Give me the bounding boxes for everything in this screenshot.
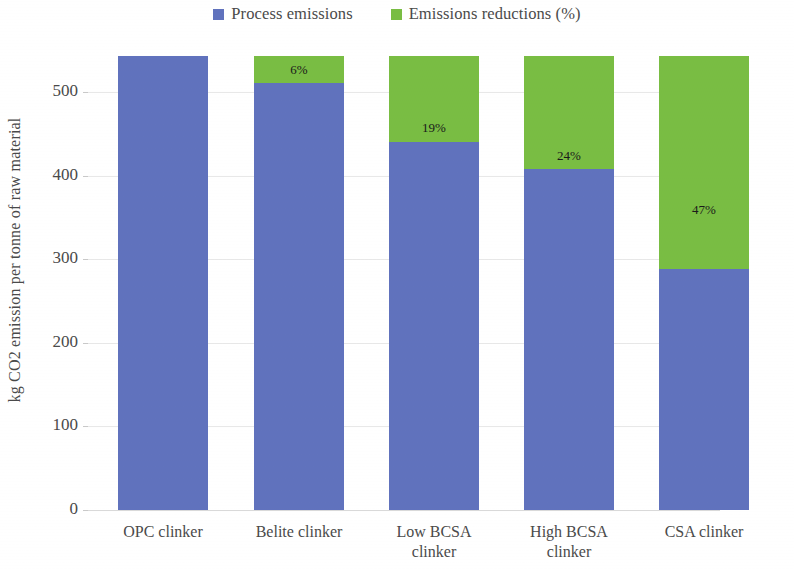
x-axis-label-csa-line1: CSA clinker [629, 522, 779, 542]
bar-segment-process-opc[interactable] [118, 56, 208, 510]
x-axis-label-belite-line1: Belite clinker [224, 522, 374, 542]
legend-item-emissions-reductions: Emissions reductions (%) [391, 5, 581, 23]
x-axis-label-belite-clinker: Belite clinker [224, 522, 374, 542]
legend-swatch-icon-reduction [391, 9, 402, 20]
bar-segment-reduction-low-bcsa[interactable] [389, 56, 479, 142]
legend-label-reduction: Emissions reductions (%) [409, 5, 581, 23]
y-axis-tick-500: 500 [34, 81, 78, 101]
legend-swatch-icon-process [213, 9, 224, 20]
x-axis-label-low-bcsa-line2: clinker [359, 542, 509, 562]
bar-group-high-bcsa-clinker[interactable]: 24% [524, 56, 614, 510]
x-axis-label-high-bcsa-line1: High BCSA [494, 522, 644, 542]
bar-segment-process-belite[interactable] [254, 83, 344, 510]
chart-legend: Process emissions Emissions reductions (… [0, 2, 794, 26]
x-axis-label-low-bcsa-clinker: Low BCSA clinker [359, 522, 509, 562]
bar-group-low-bcsa-clinker[interactable]: 19% [389, 56, 479, 510]
bar-segment-process-low-bcsa[interactable] [389, 142, 479, 510]
x-axis-label-high-bcsa-clinker: High BCSA clinker [494, 522, 644, 562]
bar-group-csa-clinker[interactable]: 47% [659, 56, 749, 510]
legend-item-process-emissions: Process emissions [213, 5, 352, 23]
y-axis-tick-100: 100 [34, 415, 78, 435]
bar-segment-reduction-csa[interactable] [659, 56, 749, 269]
plot-area: 6% 19% 24% 47% [88, 30, 720, 510]
x-axis-label-opc-clinker: OPC clinker [88, 522, 238, 542]
y-axis-title: kg CO2 emission per tonne of raw materia… [2, 0, 28, 520]
chart-container: Process emissions Emissions reductions (… [0, 0, 794, 569]
bar-group-belite-clinker[interactable]: 6% [254, 56, 344, 510]
bar-segment-process-csa[interactable] [659, 269, 749, 510]
y-axis-tick-0: 0 [34, 499, 78, 519]
x-axis-label-high-bcsa-line2: clinker [494, 542, 644, 562]
y-axis-tick-300: 300 [34, 248, 78, 268]
bar-group-opc-clinker[interactable] [118, 56, 208, 510]
legend-label-process: Process emissions [231, 5, 352, 23]
x-axis-label-csa-clinker: CSA clinker [629, 522, 779, 542]
y-axis-tick-200: 200 [34, 332, 78, 352]
x-axis-label-low-bcsa-line1: Low BCSA [359, 522, 509, 542]
y-axis-title-text: kg CO2 emission per tonne of raw materia… [6, 117, 24, 402]
x-axis-line [88, 510, 720, 511]
bar-segment-process-high-bcsa[interactable] [524, 169, 614, 510]
x-axis-label-opc-line1: OPC clinker [88, 522, 238, 542]
y-axis-tick-400: 400 [34, 165, 78, 185]
bar-segment-reduction-high-bcsa[interactable] [524, 56, 614, 169]
x-axis-labels: OPC clinker Belite clinker Low BCSA clin… [88, 522, 720, 568]
bar-segment-reduction-belite[interactable] [254, 56, 344, 83]
